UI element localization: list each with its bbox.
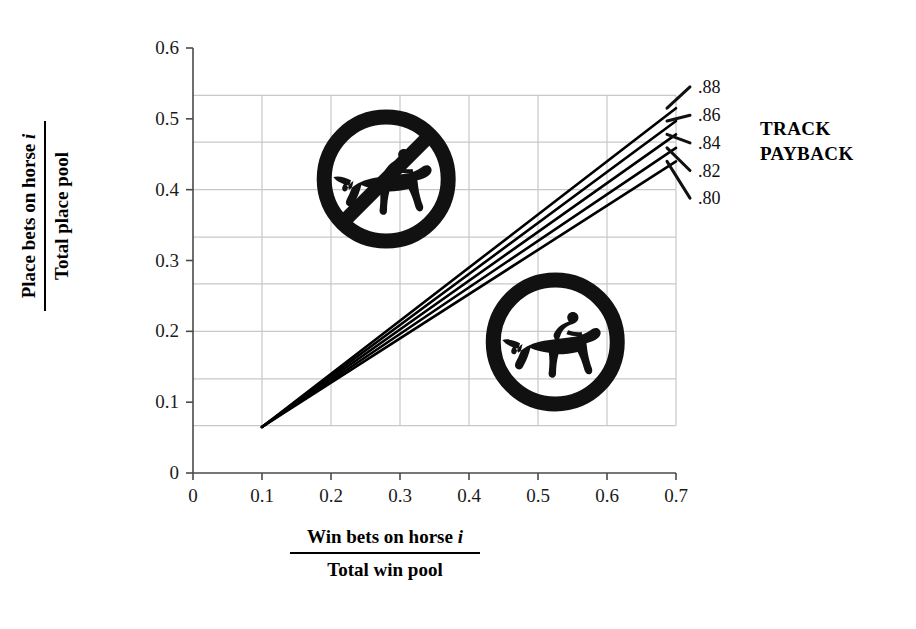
series-end-label: .82 (698, 160, 721, 181)
x-axis-tick-label: 0.2 (308, 485, 354, 507)
legend-title-line-2: PAYBACK (760, 141, 854, 166)
series-end-label: .88 (698, 76, 721, 97)
y-axis-tick-label: 0.1 (135, 391, 179, 413)
chart-axes (193, 48, 676, 473)
x-axis-title-numerator: Win bets on horse i (255, 524, 515, 552)
x-axis-tick-label: 0.3 (377, 485, 423, 507)
y-axis-tick-label: 0 (135, 462, 179, 484)
no-horse-racing-medallion-icon (324, 117, 448, 241)
legend-title-line-1: TRACK (760, 116, 854, 141)
y-axis-tick-label: 0.6 (135, 37, 179, 59)
horse-racing-medallion-icon (493, 280, 617, 404)
y-axis-title-numerator: Place bets on horse i (16, 86, 44, 346)
y-axis-title-denominator: Total place pool (46, 86, 75, 346)
chart-tick-marks (186, 48, 676, 480)
y-axis-tick-label: 0.4 (135, 179, 179, 201)
x-axis-title: Win bets on horse i Total win pool (255, 524, 515, 583)
chart-figure: 00.10.20.30.40.50.6 00.10.20.30.40.50.60… (0, 0, 916, 629)
series-end-label: .86 (698, 105, 721, 126)
y-axis-tick-label: 0.5 (135, 108, 179, 130)
y-axis-title: Place bets on horse i Total place pool (16, 86, 96, 346)
series-end-label: .84 (698, 132, 721, 153)
x-axis-tick-label: 0.4 (446, 485, 492, 507)
legend-title: TRACK PAYBACK (760, 116, 854, 166)
x-axis-tick-label: 0.6 (584, 485, 630, 507)
x-axis-tick-label: 0.7 (653, 485, 699, 507)
leader-line (667, 115, 690, 121)
x-axis-tick-label: 0 (170, 485, 216, 507)
y-axis-tick-label: 0.3 (135, 250, 179, 272)
y-axis-tick-label: 0.2 (135, 320, 179, 342)
x-axis-tick-label: 0.5 (515, 485, 561, 507)
leader-line (667, 87, 690, 108)
x-axis-tick-label: 0.1 (239, 485, 285, 507)
x-axis-title-denominator: Total win pool (255, 554, 515, 583)
series-end-label: .80 (698, 188, 721, 209)
